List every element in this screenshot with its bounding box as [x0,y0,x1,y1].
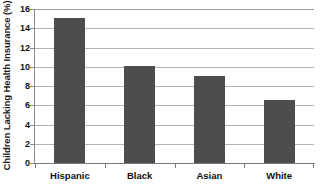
bar [194,76,225,163]
x-axis-tick-label: Asian [196,170,222,181]
y-axis-tick-label: 14 [20,23,30,33]
bar-chart: Children Lacking Health Insurance (%) 16… [0,0,320,192]
y-axis-tick-label: 12 [20,43,30,53]
x-axis-tick-mark [175,164,176,168]
x-axis-tick-label: White [266,170,292,181]
y-axis-title: Children Lacking Health Insurance (%) [0,0,14,170]
y-axis-tick-label: 10 [20,62,30,72]
x-axis-tick-label: Black [127,170,152,181]
x-axis-tick-mark [35,164,36,168]
x-axis-tick-label: Hispanic [50,170,90,181]
bar [264,100,295,163]
plot-area [35,9,314,163]
x-axis-tick-mark [244,164,245,168]
bar [124,66,155,163]
y-axis-tick-label: 16 [20,4,30,14]
bar [54,18,85,163]
bar-series [35,9,314,163]
x-axis-tick-mark [105,164,106,168]
y-axis-title-text: Children Lacking Health Insurance (%) [2,0,13,170]
x-axis-tick-mark [313,164,314,168]
